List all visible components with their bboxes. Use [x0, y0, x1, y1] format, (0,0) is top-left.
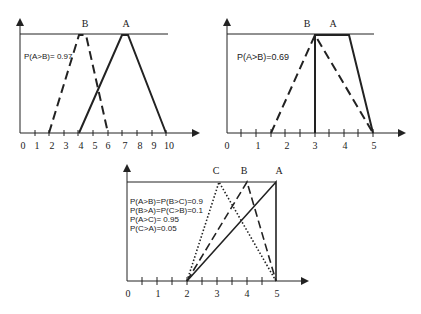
probability-annotation: P(A>B)=P(B>C)=0.9 — [130, 197, 203, 206]
tick-label: 7 — [123, 140, 128, 151]
tick-label: 1 — [35, 140, 40, 151]
label-c: C — [213, 165, 220, 176]
label-b: B — [82, 18, 89, 29]
panel-bottom: 0 1 2 3 4 5 C B A P(A>B)=P(B>C)=0.9 P(B>… — [126, 165, 306, 299]
tick-label: 6 — [106, 140, 111, 151]
tick-label: 4 — [79, 140, 84, 151]
series-b-dashed — [49, 35, 108, 133]
tick-label: 5 — [93, 140, 98, 151]
probability-annotation: P(C>A)=0.05 — [130, 224, 177, 233]
tick-label: 0 — [21, 140, 26, 151]
tick-label: 3 — [64, 140, 69, 151]
tick-label: 0 — [126, 288, 131, 299]
tick-label: 2 — [285, 140, 290, 151]
panel-top-right: 0 1 2 3 4 5 B A P(A>B)=0.69 — [225, 18, 403, 151]
probability-annotation: P(A>B)= 0.97 — [24, 52, 73, 61]
label-a: A — [329, 18, 337, 29]
probability-annotation: P(A>B)=0.69 — [237, 52, 289, 62]
tick-label: 8 — [138, 140, 143, 151]
tick-label: 0 — [225, 140, 230, 151]
tick-label: 3 — [313, 140, 318, 151]
tick-label: 1 — [256, 140, 261, 151]
tick-label: 3 — [215, 288, 220, 299]
tick-label: 5 — [275, 288, 280, 299]
x-tick-labels: 0 1 2 3 4 5 — [126, 288, 280, 299]
tick-label: 5 — [372, 140, 377, 151]
tick-label: 2 — [50, 140, 55, 151]
tick-label: 2 — [185, 288, 190, 299]
tick-label: 9 — [152, 140, 157, 151]
x-tick-labels: 0 1 2 3 4 5 — [225, 140, 377, 151]
tick-label: 4 — [343, 140, 348, 151]
x-tick-labels: 0 1 2 3 4 5 6 7 8 9 10 — [21, 140, 175, 151]
label-b: B — [304, 18, 311, 29]
label-a: A — [275, 165, 283, 176]
series-a-solid — [79, 35, 166, 133]
panel-top-left: 0 1 2 3 4 5 6 7 8 9 10 B A P(A>B)= 0.97 — [20, 18, 196, 151]
tick-label: 10 — [164, 140, 174, 151]
label-a: A — [122, 18, 130, 29]
tick-label: 1 — [156, 288, 161, 299]
series-b-dashed — [271, 35, 373, 133]
tick-label: 4 — [245, 288, 250, 299]
fuzzy-comparison-figure: 0 1 2 3 4 5 6 7 8 9 10 B A P(A>B)= 0.97 — [0, 0, 421, 314]
probability-annotation: P(B>A)=P(C>B)=0.1 — [130, 206, 203, 215]
probability-annotation: P(A>C)= 0.95 — [130, 215, 179, 224]
label-b: B — [241, 165, 248, 176]
